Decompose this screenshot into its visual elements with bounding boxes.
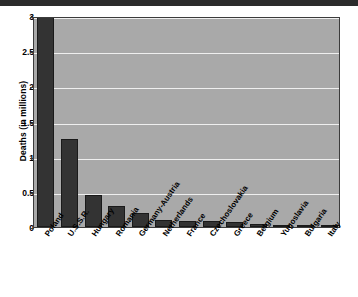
gridline — [34, 124, 339, 125]
gridline — [34, 88, 339, 89]
bar — [37, 17, 54, 227]
gridline — [34, 159, 339, 160]
gridline — [34, 53, 339, 54]
y-tick-mark — [30, 228, 34, 229]
bar-chart-figure: Deaths (in millions) 00.511.522.53 Polan… — [0, 6, 358, 297]
gridline — [34, 18, 339, 19]
